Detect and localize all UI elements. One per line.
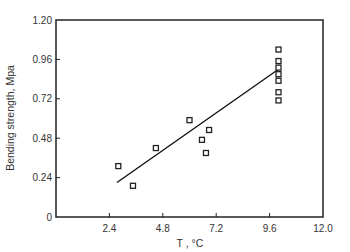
x-tick-label: 2.4 xyxy=(102,223,116,234)
x-tick-label: 12.0 xyxy=(313,223,333,234)
square-marker-icon xyxy=(276,90,281,95)
data-points xyxy=(116,47,281,188)
x-tick-label: 7.2 xyxy=(209,223,223,234)
square-marker-icon xyxy=(276,98,281,103)
x-tick-label: 4.8 xyxy=(156,223,170,234)
regression-line xyxy=(117,69,279,182)
y-tick-label: 0.48 xyxy=(33,133,53,144)
x-axis-title: T , °C xyxy=(177,237,204,249)
y-axis-title: Bending strength, Mpa xyxy=(4,65,16,171)
square-marker-icon xyxy=(199,137,204,142)
y-tick-label: 1.20 xyxy=(33,15,53,26)
square-marker-icon xyxy=(207,127,212,132)
square-marker-icon xyxy=(116,164,121,169)
y-tick-label: 0 xyxy=(46,212,52,223)
x-tick-label: 9.6 xyxy=(263,223,277,234)
y-tick-label: 0.24 xyxy=(33,172,53,183)
y-tick-label: 0.96 xyxy=(33,54,53,65)
square-marker-icon xyxy=(276,72,281,77)
square-marker-icon xyxy=(276,59,281,64)
fit-line xyxy=(117,69,279,182)
scatter-chart: 00.240.480.720.961.20 2.44.87.29.612.0 T… xyxy=(0,0,350,252)
y-tick-label: 0.72 xyxy=(33,93,53,104)
square-marker-icon xyxy=(276,65,281,70)
square-marker-icon xyxy=(203,150,208,155)
square-marker-icon xyxy=(187,118,192,123)
square-marker-icon xyxy=(276,78,281,83)
square-marker-icon xyxy=(276,47,281,52)
square-marker-icon xyxy=(153,146,158,151)
x-axis-ticks: 2.44.87.29.612.0 xyxy=(102,213,333,234)
square-marker-icon xyxy=(130,183,135,188)
